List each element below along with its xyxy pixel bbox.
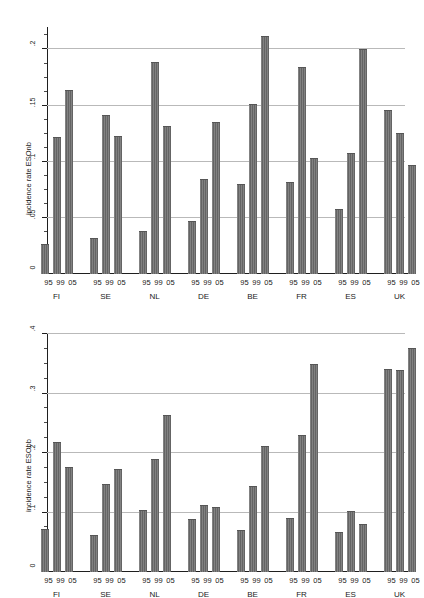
x-axis-group-label-FI: FI: [37, 590, 77, 598]
x-axis-group-label-BE: BE: [233, 590, 273, 598]
x-axis-group-label-NL: NL: [135, 292, 175, 302]
bar-UK-05: [408, 165, 416, 274]
x-axis-group-label-FR: FR: [282, 590, 322, 598]
y-axis-tick-label: .2: [29, 445, 36, 463]
x-group-label-layer-top: FISENLDEBEFRESUK: [47, 0, 405, 312]
x-axis-group-label-SE: SE: [86, 292, 126, 302]
y-axis-tick-label: .05: [29, 209, 36, 227]
y-axis-tick-label: 0: [29, 266, 36, 284]
y-axis-tick-label: .1: [29, 504, 36, 522]
x-axis-tick-label: 05: [408, 576, 424, 585]
x-axis-group-label-FR: FR: [282, 292, 322, 302]
x-axis-group-label-UK: UK: [380, 292, 420, 302]
y-axis-tick-label: 0: [29, 564, 36, 582]
y-axis-tick-label: .3: [29, 385, 36, 403]
bar-UK-05: [408, 348, 416, 572]
y-axis-tick-label: .15: [29, 97, 36, 115]
y-axis-tick-label: .1: [29, 153, 36, 171]
x-axis-group-label-FI: FI: [37, 292, 77, 302]
chart-incidence-rate-esonb: incidence rate ESOnb 0.05.1.15.2 9599059…: [0, 0, 413, 312]
x-axis-group-label-NL: NL: [135, 590, 175, 598]
x-axis-tick-label: 05: [408, 278, 424, 287]
y-axis-tick-label: .4: [29, 326, 36, 344]
x-axis-group-label-BE: BE: [233, 292, 273, 302]
x-group-label-layer-bottom: FISENLDEBEFRESUK: [47, 312, 405, 598]
x-axis-group-label-DE: DE: [184, 292, 224, 302]
x-axis-group-label-SE: SE: [86, 590, 126, 598]
x-axis-group-label-ES: ES: [331, 292, 371, 302]
y-axis-tick-label: .2: [29, 41, 36, 59]
x-axis-group-label-ES: ES: [331, 590, 371, 598]
x-axis-group-label-UK: UK: [380, 590, 420, 598]
chart-incidence-rate-esobb: incidence rate ESObb 0.1.2.3.4 959905959…: [0, 312, 413, 598]
x-axis-group-label-DE: DE: [184, 590, 224, 598]
